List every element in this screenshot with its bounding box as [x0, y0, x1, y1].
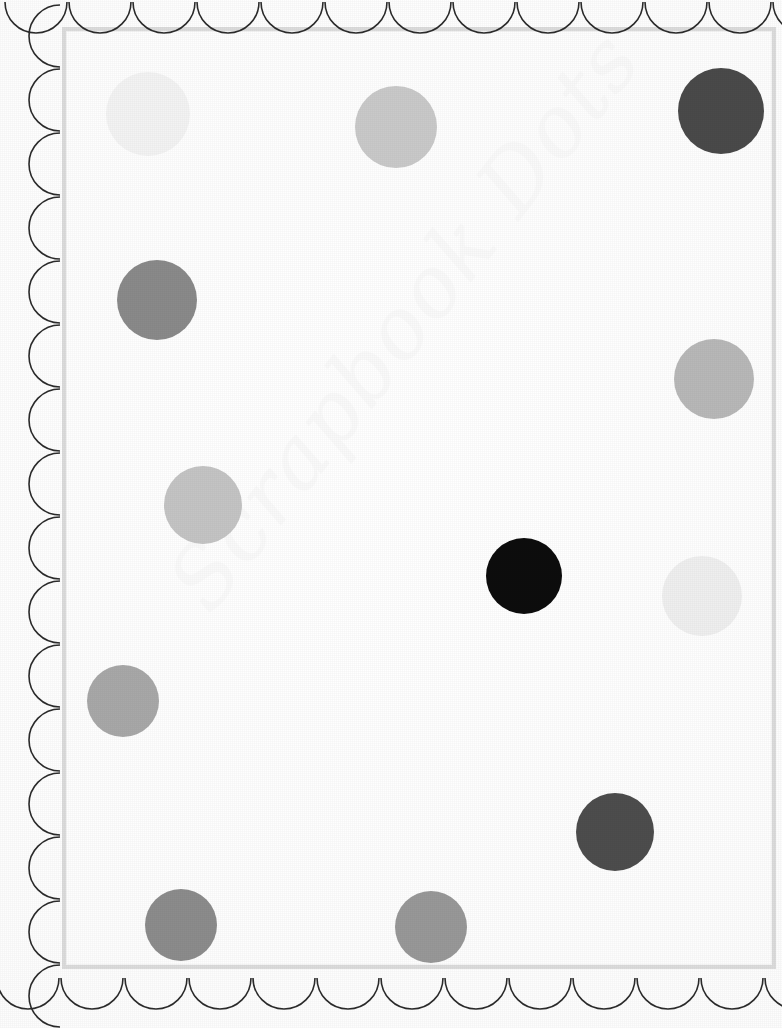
inner-frame: [62, 27, 776, 969]
decorative-page: Scrapbook Dots: [0, 0, 782, 1028]
inner-frame-hairline: [66, 31, 772, 965]
